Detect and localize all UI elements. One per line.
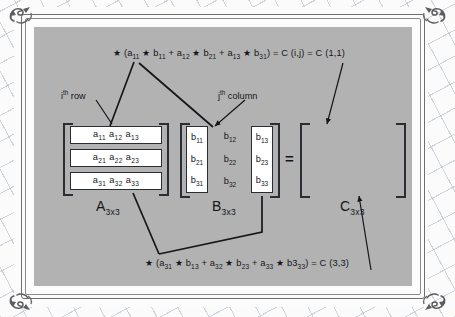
matrix-a-cell-subscript: 11 [98, 134, 106, 141]
formula-token: ★ [190, 48, 204, 58]
formula-top: ★ (a11 ★ b11 + a12 ★ b21 + a13 ★ b31) = … [113, 47, 345, 60]
matrix-a-row: a31a32a33 [70, 172, 162, 190]
matrix-a-cell-subscript: 21 [98, 157, 106, 164]
formula-token-subscript: 32 [215, 263, 223, 270]
matrix-b-cell: b21 [191, 154, 203, 166]
matrix-a-cell-subscript: 32 [115, 180, 123, 187]
formula-token-subscript: 31 [164, 263, 172, 270]
formula-token: ★ ( [113, 48, 127, 58]
matrix-a-cell-subscript: 13 [131, 134, 139, 141]
matrix-a-cell: a31 [93, 175, 107, 187]
matrix-b-cell: b23 [256, 154, 268, 166]
matrix-b-cell: b33 [256, 175, 268, 187]
formula-token-subscript: 11 [132, 53, 139, 60]
figure-root: ★ (a11 ★ b11 + a12 ★ b21 + a13 ★ b31) = … [0, 0, 455, 317]
matrix-b-cell: b31 [191, 175, 203, 187]
formula-token-subscript: 12 [182, 53, 190, 60]
formula-token: + [166, 48, 177, 58]
matrix-b-cell-subscript: 13 [261, 137, 268, 144]
matrix-a-row: a11a12a13 [70, 126, 162, 144]
matrix-b-cell-subscript: 33 [261, 180, 268, 187]
formula-token: b31 [254, 48, 267, 58]
label-ith-row: ith row [61, 89, 86, 101]
formula-bottom-text: ★ (a31 ★ b13 + a32 ★ b23 + a33 ★ b333) =… [145, 258, 349, 268]
formula-token: a13 [227, 48, 240, 58]
matrix-b-column: b13b23b33 [251, 126, 273, 193]
matrix-a-cell: a21 [93, 152, 107, 164]
matrix-b-cell-subscript: 21 [196, 158, 203, 165]
matrix-a-cell-subscript: 31 [98, 180, 106, 187]
equals-sign: = [285, 150, 294, 167]
formula-token: a11 [127, 48, 139, 58]
formula-token: ★ [240, 48, 254, 58]
matrix-b-cell-subscript: 11 [196, 137, 203, 144]
matrix-c [300, 123, 406, 198]
formula-bottom: ★ (a31 ★ b13 + a32 ★ b23 + a33 ★ b333) =… [145, 257, 349, 270]
matrix-a-cell-subscript: 33 [131, 180, 139, 187]
matrix-a-cell: a32 [109, 175, 123, 187]
formula-token: a32 [210, 258, 223, 268]
formula-token: ★ [273, 258, 287, 268]
matrix-a-row: a21a22a23 [70, 149, 162, 167]
matrix-a-cell: a12 [109, 129, 123, 141]
matrix-a-cell-subscript: 12 [115, 134, 123, 141]
matrix-b-cell: b32 [224, 176, 236, 188]
label-jth-column: jth column [218, 89, 257, 101]
matrix-a-label: A3x3 [96, 198, 120, 217]
formula-token: a12 [177, 48, 190, 58]
matrix-a-cell: a33 [126, 175, 140, 187]
matrix-a-cell-subscript: 22 [115, 157, 123, 164]
matrix-c-bracket-left [300, 123, 310, 198]
matrix-c-label: C3x3 [340, 198, 365, 217]
matrix-b-cell-subscript: 12 [229, 136, 236, 143]
matrix-a-cell: a22 [109, 152, 123, 164]
matrix-c-label-subscript: 3x3 [350, 207, 364, 217]
matrix-b-cell-subscript: 32 [229, 181, 236, 188]
matrix-b-column: b11b21b31 [186, 126, 208, 193]
formula-token: ★ ( [145, 258, 159, 268]
formula-token: + [216, 48, 227, 58]
formula-token: b13 [186, 258, 199, 268]
matrix-a: a11a12a13 a21a22a23 a31a32a33 [63, 123, 169, 196]
matrix-b-label-subscript: 3x3 [222, 207, 236, 217]
formula-token: ) = C (3,3) [305, 258, 349, 268]
matrix-b-cell: b22 [224, 154, 236, 166]
formula-token: b23 [236, 258, 249, 268]
formula-token: + [199, 258, 210, 268]
matrix-a-cell: a23 [126, 152, 140, 164]
formula-token: b21 [203, 48, 216, 58]
matrix-b-cell: b13 [256, 132, 268, 144]
matrix-a-cell: a13 [126, 129, 140, 141]
matrix-b-cell-subscript: 23 [261, 158, 268, 165]
matrix-b-cell-subscript: 31 [196, 180, 203, 187]
matrix-a-label-subscript: 3x3 [106, 207, 120, 217]
formula-token: b333 [287, 258, 305, 268]
formula-token: + [249, 258, 260, 268]
formula-top-text: ★ (a11 ★ b11 + a12 ★ b21 + a13 ★ b31) = … [113, 48, 345, 58]
formula-token: a33 [260, 258, 273, 268]
matrix-b-cell: b11 [191, 132, 203, 144]
formula-token: ★ [140, 48, 154, 58]
formula-token-subscript: 11 [159, 53, 166, 60]
matrix-b-cell-subscript: 22 [229, 158, 236, 165]
formula-token: ★ [172, 258, 186, 268]
matrix-a-cell-subscript: 23 [131, 157, 139, 164]
formula-token: ★ [223, 258, 237, 268]
formula-token-subscript: 31 [259, 53, 267, 60]
matrix-b: b11b21b31 b12b22b32 b13b23b33 [180, 123, 280, 198]
matrix-c-bracket-right [396, 123, 406, 198]
matrix-b-column: b12b22b32 [219, 126, 241, 193]
formula-token-subscript: 13 [191, 263, 199, 270]
matrix-b-label: B3x3 [212, 198, 236, 217]
formula-token: a31 [159, 258, 172, 268]
matrix-a-cell: a11 [93, 129, 106, 141]
formula-token: ) = C (i,j) = C (1,1) [267, 48, 345, 58]
matrix-b-cell: b12 [224, 131, 236, 143]
formula-token: b11 [153, 48, 165, 58]
